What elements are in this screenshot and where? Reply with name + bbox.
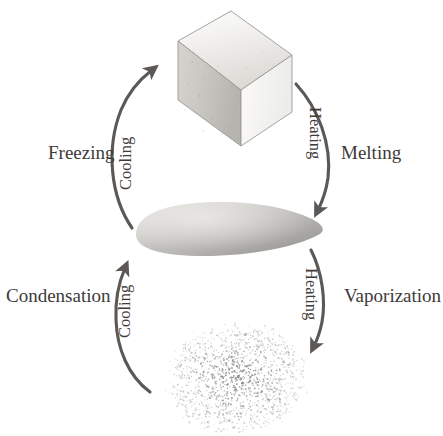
label-heating-vaporization: Heating (302, 268, 321, 320)
label-cooling-freezing: Cooling (116, 137, 135, 190)
phase-change-diagram: Freezing Cooling Melting Heating Condens… (0, 0, 443, 436)
solid-block (178, 11, 292, 146)
liquid-blob-highlight (136, 202, 323, 256)
label-vaporization: Vaporization (344, 285, 442, 306)
label-freezing: Freezing (48, 142, 115, 163)
gas-particle-cloud (165, 322, 307, 432)
liquid-blob (136, 202, 323, 256)
label-heating-melting: Heating (306, 107, 325, 159)
diagram-canvas: Freezing Cooling Melting Heating Condens… (0, 0, 443, 436)
label-cooling-condensation: Cooling (115, 285, 134, 338)
label-melting: Melting (341, 142, 402, 163)
label-condensation: Condensation (6, 285, 111, 306)
